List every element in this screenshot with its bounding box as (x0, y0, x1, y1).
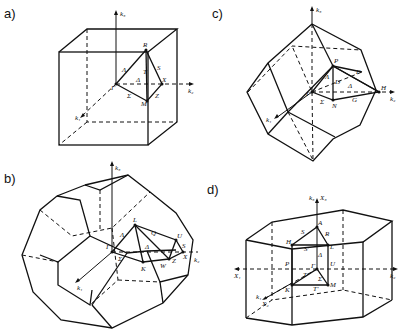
svg-text:k₃: k₃ (115, 164, 121, 172)
svg-text:X: X (161, 76, 167, 84)
svg-text:M: M (329, 281, 337, 289)
svg-text:k₃: k₃ (309, 194, 315, 202)
svg-text:k₂: k₂ (188, 87, 194, 95)
svg-text:Λ: Λ (119, 231, 125, 239)
svg-text:H: H (380, 84, 387, 92)
svg-text:k₃: k₃ (120, 10, 126, 18)
svg-text:S: S (301, 228, 305, 236)
svg-text:k₁: k₁ (77, 284, 83, 292)
svg-text:Δ: Δ (144, 243, 149, 251)
svg-text:R: R (142, 41, 148, 49)
svg-text:K: K (140, 265, 146, 273)
svg-text:U: U (330, 260, 336, 268)
panel-d: d) k₃ X₃ k₂ X₁ k₁ X₂ A (207, 182, 398, 325)
svg-text:U: U (177, 232, 183, 240)
svg-text:Δ: Δ (317, 251, 322, 259)
svg-text:k₂: k₂ (390, 272, 396, 280)
svg-text:G: G (352, 96, 357, 104)
svg-text:Z: Z (172, 257, 176, 265)
svg-text:T': T' (313, 285, 319, 293)
svg-text:A: A (317, 219, 323, 227)
svg-text:Z: Z (155, 92, 159, 100)
svg-text:k₃: k₃ (316, 6, 322, 14)
svg-text:K: K (284, 286, 290, 294)
svg-text:Q: Q (151, 229, 156, 237)
svg-text:k₁: k₁ (266, 116, 272, 124)
svg-text:L: L (132, 216, 137, 224)
svg-text:S': S' (304, 245, 310, 253)
svg-text:H: H (285, 238, 292, 246)
panel-c-title: c) (212, 6, 223, 21)
svg-text:Δ: Δ (347, 82, 352, 90)
svg-text:X₂: X₂ (261, 300, 269, 308)
svg-text:R: R (324, 230, 330, 238)
svg-text:k₁: k₁ (75, 114, 81, 122)
svg-text:W: W (160, 262, 167, 270)
svg-text:k₂: k₂ (390, 95, 396, 103)
svg-text:Σ: Σ (126, 92, 132, 100)
svg-text:M: M (140, 100, 148, 108)
svg-text:Λ: Λ (121, 66, 127, 74)
svg-text:Σ: Σ (317, 275, 323, 283)
svg-text:L: L (329, 243, 334, 251)
svg-text:S: S (157, 64, 161, 72)
svg-text:Σ: Σ (117, 255, 123, 263)
panel-a-title: a) (4, 6, 16, 21)
svg-text:k₁: k₁ (256, 293, 262, 301)
svg-text:T: T (143, 68, 148, 76)
panel-a: a) k₃ k₂ k₁ Γ R X M Λ Δ Σ T S Z (4, 6, 194, 145)
panel-c: c) k₃ k₂ k₁ Γ P H N Λ Δ Σ (212, 6, 396, 161)
svg-text:Δ: Δ (135, 76, 140, 84)
panel-b-title: b) (4, 171, 16, 186)
svg-text:S: S (182, 242, 186, 250)
svg-text:k₂: k₂ (194, 256, 200, 264)
panel-d-title: d) (207, 182, 219, 197)
brillouin-zones-figure: a) k₃ k₂ k₁ Γ R X M Λ Δ Σ T S Z c) (0, 0, 401, 334)
panel-b: b) k₃ k₂ k₁ Γ L K (4, 161, 200, 328)
svg-text:Σ: Σ (319, 98, 325, 106)
svg-text:P: P (284, 260, 290, 268)
svg-text:Γ: Γ (305, 90, 311, 98)
svg-text:F: F (355, 68, 361, 76)
svg-text:N: N (331, 102, 337, 110)
svg-text:X₃: X₃ (319, 194, 327, 202)
svg-text:D: D (334, 78, 340, 86)
svg-text:P: P (333, 57, 339, 65)
svg-text:X: X (182, 253, 188, 261)
svg-text:Γ: Γ (105, 243, 111, 251)
svg-text:X₁: X₁ (233, 272, 241, 280)
svg-text:Λ: Λ (324, 73, 330, 81)
